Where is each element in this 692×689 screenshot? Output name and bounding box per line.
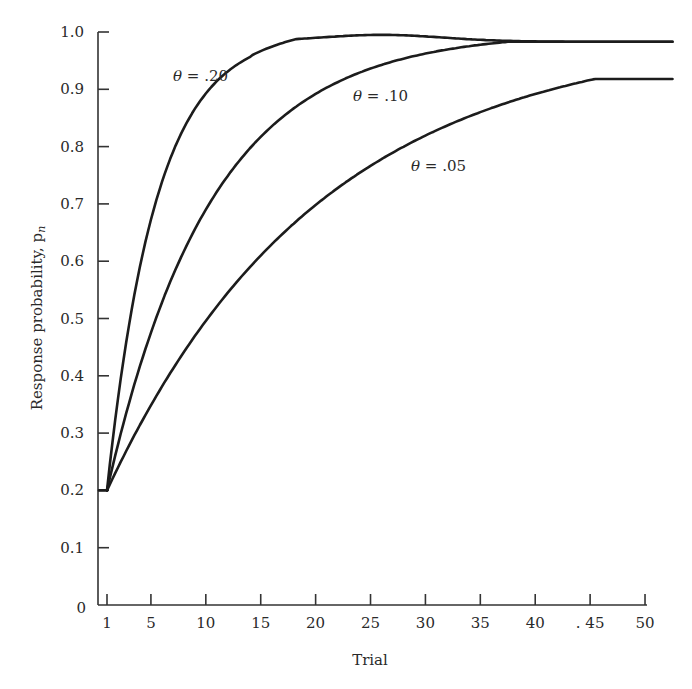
x-tick-label: 35: [471, 614, 490, 632]
y-tick-label: 0.4: [60, 367, 84, 385]
y-tick-label: 0.5: [60, 310, 84, 328]
y-axis-title: Response probability, pn: [28, 226, 48, 411]
y-tick-label: 0: [76, 599, 86, 617]
x-axis-title: Trial: [352, 651, 388, 669]
y-tick-label: 0.2: [60, 481, 84, 499]
y-tick-label: 0.8: [60, 138, 84, 156]
y-tick-label: 1.0: [60, 23, 84, 41]
x-tick-label: 1: [102, 614, 112, 632]
x-tick-label: 40: [526, 614, 545, 632]
x-tick-label: 10: [196, 614, 215, 632]
y-tick-label: 0.9: [60, 80, 84, 98]
axes: [98, 32, 647, 605]
learning-curve-chart: 00.10.20.30.40.50.60.70.80.91.0 15101520…: [0, 0, 692, 689]
x-tick-label: 5: [146, 614, 156, 632]
curve-theta-05: [107, 79, 673, 490]
y-tick-label: 0.7: [60, 195, 84, 213]
y-tick-label: 0.6: [60, 252, 84, 270]
curve-label-2: θ = .05: [411, 157, 466, 175]
x-tick-label: 50: [635, 614, 654, 632]
curve-label-1: θ = .10: [353, 87, 408, 105]
y-tick-label: 0.3: [60, 424, 84, 442]
x-tick-label: 30: [416, 614, 435, 632]
x-tick-label: 20: [306, 614, 325, 632]
y-axis-ticks: 00.10.20.30.40.50.60.70.80.91.0: [60, 23, 109, 617]
y-axis-title-main: Response probability, p: [28, 233, 46, 411]
x-tick-label: 15: [251, 614, 270, 632]
x-tick-label: 25: [361, 614, 380, 632]
y-tick-label: 0.1: [60, 539, 84, 557]
curve-theta-1: [107, 42, 673, 491]
curve-labels: θ = .20θ = .10θ = .05: [173, 67, 466, 175]
x-axis-ticks: 1510152025303540. 4550: [102, 594, 654, 632]
curve-label-0: θ = .20: [173, 67, 228, 85]
y-axis-title-subscript: n: [35, 226, 48, 233]
x-tick-label: . 45: [576, 614, 605, 632]
